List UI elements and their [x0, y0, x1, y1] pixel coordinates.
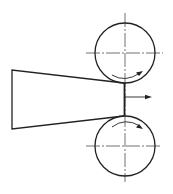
workpiece: [12, 70, 124, 129]
bottom-roller-rotation-arrow-icon: [112, 122, 143, 129]
top-roller-rotation-arrow-icon: [112, 71, 143, 79]
rolling-diagram: [0, 0, 173, 194]
exit-direction-arrow-icon: [125, 95, 152, 99]
